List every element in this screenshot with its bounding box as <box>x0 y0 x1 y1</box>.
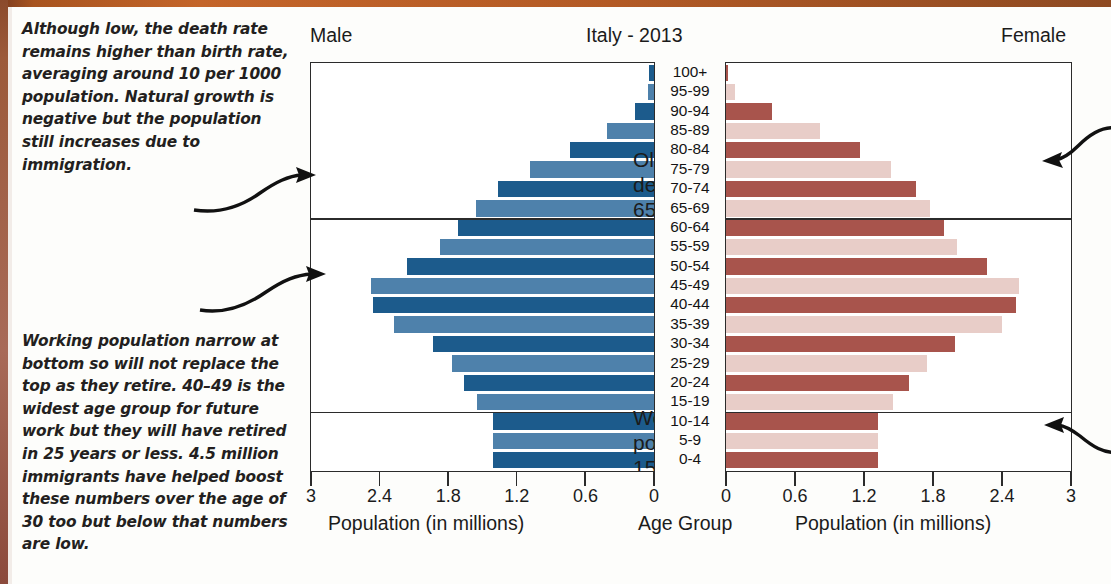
female-bar-row <box>726 140 1071 159</box>
female-bar-row <box>726 412 1071 431</box>
axis-tick-label: 3 <box>306 486 316 507</box>
cohort-working-line3: 15-64 <box>633 456 655 472</box>
axis-tick <box>653 472 655 486</box>
male-bar <box>648 84 654 100</box>
male-bar <box>440 239 654 255</box>
axis-tick-label: 0 <box>649 486 659 507</box>
male-bar <box>394 316 654 332</box>
female-bar <box>726 433 878 449</box>
male-bar-row <box>311 334 654 353</box>
male-bar-row <box>311 295 654 314</box>
female-bar-row <box>726 295 1071 314</box>
cohort-working-line1: Working <box>633 406 655 429</box>
male-bar <box>464 375 654 391</box>
male-bar-row <box>311 199 654 218</box>
age-group-label: 60-64 <box>655 217 725 236</box>
male-bar <box>607 123 654 139</box>
female-bar <box>726 220 944 236</box>
female-bar <box>726 200 930 216</box>
female-bar <box>726 452 878 468</box>
age-group-label: 30-34 <box>655 333 725 352</box>
page-border-left-inner <box>8 7 12 584</box>
male-divider-old <box>311 218 654 220</box>
axis-tick <box>310 472 312 486</box>
female-divider-working <box>726 412 1071 414</box>
cohort-old-line1: Old dependents <box>633 148 655 196</box>
male-bar <box>458 220 654 236</box>
female-bar <box>726 142 860 158</box>
age-group-label: 35-39 <box>655 314 725 333</box>
age-group-label: 95-99 <box>655 81 725 100</box>
age-group-label: 40-44 <box>655 294 725 313</box>
axis-tick <box>447 472 449 486</box>
age-group-label: 80-84 <box>655 139 725 158</box>
female-bar-rows <box>726 63 1071 471</box>
axis-tick <box>725 472 727 486</box>
age-group-label: 5-9 <box>655 430 725 449</box>
male-bar-row <box>311 392 654 411</box>
female-bar-row <box>726 373 1071 392</box>
male-plot-panel: Old dependents 65+ Working population 15… <box>310 62 655 472</box>
male-bar <box>452 355 654 371</box>
female-bar-row <box>726 199 1071 218</box>
annotation-column: Although low, the death rate remains hig… <box>16 18 298 578</box>
male-bar <box>433 336 654 352</box>
age-group-label: 20-24 <box>655 372 725 391</box>
female-bar <box>726 258 987 274</box>
axis-tick-label: 1.2 <box>851 486 876 507</box>
female-bar-row <box>726 179 1071 198</box>
male-bar <box>371 278 654 294</box>
male-bar-row <box>311 179 654 198</box>
axis-tick-label: 2.4 <box>989 486 1014 507</box>
female-bar-row <box>726 257 1071 276</box>
female-bar-row <box>726 354 1071 373</box>
male-bar <box>635 103 654 119</box>
female-bar <box>726 84 735 100</box>
age-group-label: 45-49 <box>655 275 725 294</box>
chart-title: Italy - 2013 <box>586 24 682 50</box>
male-bar <box>493 413 654 429</box>
female-bar <box>726 278 1019 294</box>
female-bar-row <box>726 392 1071 411</box>
cohort-label-working: Working population 15-64 <box>633 405 655 472</box>
axis-tick <box>584 472 586 486</box>
male-bar-row <box>311 373 654 392</box>
male-bar <box>407 258 654 274</box>
female-plot-panel <box>725 62 1072 472</box>
male-bar <box>477 394 654 410</box>
age-group-label: 0-4 <box>655 449 725 468</box>
annotation-death-rate: Although low, the death rate remains hig… <box>22 18 294 176</box>
age-group-label: 70-74 <box>655 178 725 197</box>
age-group-labels: 100+95-9990-9485-8980-8475-7970-7465-696… <box>655 62 725 472</box>
female-bar-row <box>726 102 1071 121</box>
axis-tick <box>932 472 934 486</box>
axis-tick-label: 1.2 <box>504 486 529 507</box>
age-group-label: 50-54 <box>655 256 725 275</box>
female-bar-row <box>726 160 1071 179</box>
female-bar <box>726 375 909 391</box>
female-bar-row <box>726 63 1071 82</box>
female-bar <box>726 316 1002 332</box>
female-axis: 00.61.21.82.43 <box>725 472 1072 488</box>
female-bar <box>726 161 891 177</box>
age-group-label: 65-69 <box>655 198 725 217</box>
male-bar <box>373 297 654 313</box>
female-bar <box>726 297 1016 313</box>
male-bar-row <box>311 257 654 276</box>
age-group-label: 75-79 <box>655 159 725 178</box>
axis-tick <box>1070 472 1072 486</box>
age-group-label: 55-59 <box>655 236 725 255</box>
male-bar-row <box>311 63 654 82</box>
age-group-label: 10-14 <box>655 411 725 430</box>
male-header: Male <box>310 24 352 50</box>
male-bar-row <box>311 276 654 295</box>
female-bar-row <box>726 315 1071 334</box>
annotation-working-population: Working population narrow at bottom so w… <box>22 330 298 556</box>
male-bar-row <box>311 160 654 179</box>
female-bar-row <box>726 121 1071 140</box>
axis-tick <box>794 472 796 486</box>
female-header: Female <box>1001 24 1066 50</box>
female-bar <box>726 65 728 81</box>
female-bar-row <box>726 237 1071 256</box>
female-bar-row <box>726 334 1071 353</box>
